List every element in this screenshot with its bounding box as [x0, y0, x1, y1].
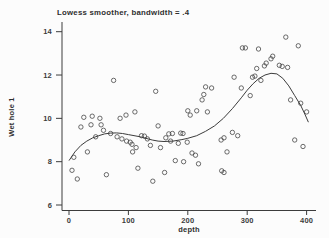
- scatter-point: [99, 123, 103, 127]
- scatter-point: [111, 78, 115, 82]
- scatter-point: [248, 93, 252, 97]
- scatter-point: [158, 145, 162, 149]
- plot-area: 681012140100200300400: [0, 0, 329, 238]
- x-tick-label: 400: [300, 216, 313, 225]
- scatter-point: [136, 166, 140, 170]
- scatter-point: [304, 110, 308, 114]
- scatter-point: [130, 150, 134, 154]
- scatter-point: [70, 168, 74, 172]
- scatter-point: [288, 98, 292, 102]
- scatter-point: [296, 44, 300, 48]
- scatter-point: [200, 98, 204, 102]
- scatter-point: [230, 130, 234, 134]
- scatter-point: [232, 75, 236, 79]
- scatter-point: [82, 115, 86, 119]
- scatter-point: [196, 162, 200, 166]
- scatter-point: [243, 46, 247, 50]
- scatter-point: [151, 179, 155, 183]
- x-tick-label: 200: [181, 216, 194, 225]
- scatter-point: [164, 136, 168, 140]
- scatter-point: [101, 128, 105, 132]
- scatter-point: [188, 113, 192, 117]
- scatter-point: [181, 160, 185, 164]
- scatter-point: [75, 177, 79, 181]
- y-tick-label: 8: [48, 157, 52, 166]
- scatter-point: [173, 158, 177, 162]
- scatter-point: [79, 125, 83, 129]
- scatter-point: [193, 153, 197, 157]
- scatter-point: [133, 110, 137, 114]
- y-tick-label: 14: [43, 27, 52, 36]
- scatter-point: [154, 89, 158, 93]
- scatter-point: [186, 109, 190, 113]
- scatter-point: [293, 138, 297, 142]
- scatter-point: [205, 110, 209, 114]
- y-tick-label: 10: [43, 114, 52, 123]
- x-tick-label: 300: [241, 216, 254, 225]
- scatter-point: [104, 173, 108, 177]
- y-tick-label: 6: [48, 201, 52, 210]
- scatter-point: [209, 86, 213, 90]
- scatter-point: [176, 141, 180, 145]
- x-tick-label: 100: [122, 216, 135, 225]
- scatter-point: [120, 137, 124, 141]
- lowess-figure: Lowess smoother, bandwidth = .4 Wet hole…: [0, 0, 329, 238]
- scatter-point: [256, 47, 260, 51]
- scatter-point: [203, 85, 207, 89]
- scatter-point: [118, 116, 122, 120]
- scatter-point: [301, 144, 305, 148]
- scatter-point: [115, 135, 119, 139]
- scatter-point: [85, 150, 89, 154]
- scatter-point: [98, 116, 102, 120]
- scatter-point: [72, 155, 76, 159]
- scatter-point: [202, 92, 206, 96]
- scatter-point: [225, 150, 229, 154]
- x-tick-label: 0: [67, 216, 71, 225]
- scatter-point: [124, 113, 128, 117]
- scatter-point: [259, 78, 263, 82]
- y-tick-label: 12: [43, 71, 52, 80]
- scatter-point: [90, 114, 94, 118]
- scatter-point: [134, 145, 138, 149]
- scatter-point: [280, 64, 284, 68]
- scatter-point: [156, 124, 160, 128]
- scatter-point: [162, 170, 166, 174]
- x-axis-label: depth: [159, 225, 219, 234]
- scatter-point: [239, 86, 243, 90]
- scatter-point: [284, 35, 288, 39]
- scatter-point: [89, 123, 93, 127]
- scatter-point: [148, 143, 152, 147]
- scatter-point: [255, 66, 259, 70]
- scatter-point: [185, 140, 189, 144]
- scatter-point: [219, 138, 223, 142]
- scatter-point: [285, 65, 289, 69]
- scatter-point: [236, 134, 240, 138]
- scatter-point: [222, 136, 226, 140]
- scatter-point: [195, 109, 199, 113]
- scatter-point: [277, 63, 281, 67]
